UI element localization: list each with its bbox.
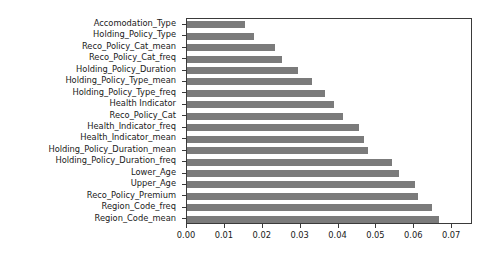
- bar-row: [187, 156, 392, 167]
- bar: [187, 181, 415, 188]
- x-axis-tick-mark: [186, 224, 187, 228]
- bar-row: [187, 168, 399, 179]
- x-axis-tick-mark: [413, 224, 414, 228]
- x-axis-tick-label: 0.00: [177, 230, 195, 240]
- bar-row: [187, 202, 432, 213]
- y-axis-tick-label: Health_Indicator_mean: [80, 132, 176, 143]
- bar: [187, 44, 275, 51]
- x-axis-tick-mark: [224, 224, 225, 228]
- x-axis-tick-label: 0.04: [328, 230, 346, 240]
- bar-row: [187, 191, 418, 202]
- bar-row: [187, 65, 298, 76]
- bar: [187, 78, 312, 85]
- bar: [187, 124, 359, 131]
- y-axis-tick-label: Holding_Policy_Duration_freq: [55, 155, 176, 166]
- x-axis-tick-label: 0.07: [442, 230, 460, 240]
- bar: [187, 90, 325, 97]
- x-axis-tick-label: 0.02: [253, 230, 271, 240]
- plot-area: [186, 18, 472, 224]
- bar-row: [187, 145, 368, 156]
- bar-row: [187, 76, 312, 87]
- bar-row: [187, 214, 439, 224]
- y-axis-tick-label: Holding_Policy_Type_freq: [72, 87, 176, 98]
- bar: [187, 136, 364, 143]
- y-axis-labels: Accomodation_TypeHolding_Policy_TypeReco…: [0, 18, 182, 224]
- bar: [187, 101, 334, 108]
- bar-row: [187, 179, 415, 190]
- bar: [187, 170, 399, 177]
- x-axis: 0.000.010.020.030.040.050.060.07: [186, 224, 472, 250]
- x-axis-tick-mark: [451, 224, 452, 228]
- x-axis-tick-label: 0.03: [290, 230, 308, 240]
- y-axis-tick-label: Accomodation_Type: [94, 18, 176, 29]
- y-axis-tick-label: Reco_Policy_Cat_freq: [89, 52, 176, 63]
- bar-row: [187, 53, 282, 64]
- bar: [187, 147, 368, 154]
- y-axis-tick-label: Holding_Policy_Duration: [76, 64, 176, 75]
- x-axis-tick-mark: [300, 224, 301, 228]
- bar-row: [187, 99, 334, 110]
- bar: [187, 113, 343, 120]
- y-axis-tick-label: Region_Code_freq: [102, 201, 176, 212]
- bar: [187, 193, 418, 200]
- bar: [187, 56, 282, 63]
- bar: [187, 33, 254, 40]
- bar: [187, 21, 245, 28]
- y-axis-tick-label: Region_Code_mean: [95, 213, 176, 224]
- bar: [187, 216, 439, 223]
- y-axis-tick-label: Health_Indicator_freq: [87, 121, 176, 132]
- y-axis-tick-label: Holding_Policy_Type: [93, 29, 176, 40]
- y-axis-tick-label: Reco_Policy_Cat_mean: [82, 41, 176, 52]
- x-axis-tick-mark: [375, 224, 376, 228]
- bar: [187, 67, 298, 74]
- bar-row: [187, 30, 254, 41]
- feature-importance-chart: Accomodation_TypeHolding_Policy_TypeReco…: [0, 0, 490, 253]
- bar: [187, 204, 432, 211]
- x-axis-tick-mark: [338, 224, 339, 228]
- y-axis-tick-label: Health Indicator: [109, 98, 176, 109]
- y-axis-tick-label: Reco_Policy_Cat: [110, 110, 176, 121]
- bar-row: [187, 19, 245, 30]
- bar: [187, 159, 392, 166]
- x-axis-tick-label: 0.01: [215, 230, 233, 240]
- x-axis-tick-label: 0.06: [404, 230, 422, 240]
- x-axis-tick-label: 0.05: [366, 230, 384, 240]
- bar-series: [187, 19, 471, 223]
- y-axis-tick-label: Lower_Age: [131, 167, 176, 178]
- y-axis-tick-label: Holding_Policy_Type_mean: [65, 75, 176, 86]
- y-axis-tick-label: Reco_Policy_Premium: [87, 190, 176, 201]
- bar-row: [187, 42, 275, 53]
- bar-row: [187, 122, 359, 133]
- y-axis-tick-label: Holding_Policy_Duration_mean: [48, 144, 176, 155]
- bar-row: [187, 88, 325, 99]
- bar-row: [187, 111, 343, 122]
- y-axis-tick-label: Upper_Age: [131, 178, 176, 189]
- bar-row: [187, 133, 364, 144]
- x-axis-tick-mark: [262, 224, 263, 228]
